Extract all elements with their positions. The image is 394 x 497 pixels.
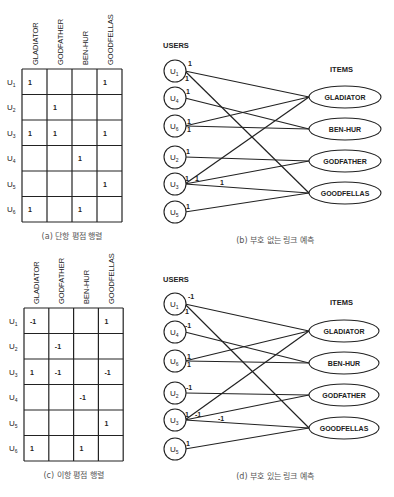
item-node: GOODFELLAS [309, 182, 381, 204]
item-node: GLADIATOR [309, 320, 379, 342]
user-node: U3 [164, 173, 186, 195]
row-header: U2 [7, 103, 16, 113]
item-node-label: BEN-HUR [328, 360, 360, 367]
row-header: U6 [7, 205, 16, 215]
item-node: BEN-HUR [309, 352, 379, 374]
edge-line [185, 428, 309, 449]
unsigned-link-prediction-graph: 1111111111U1U4U6U2U3U5GLADIATORBEN-HURGO… [163, 41, 381, 245]
edge-weight-label: -1 [185, 322, 191, 329]
matrix-cell-value: 1 [28, 130, 32, 137]
matrix-cell-value: 1 [104, 318, 108, 325]
edge-weight-label: 1 [186, 203, 190, 210]
matrix-cell-value: 1 [53, 104, 57, 111]
binary-rating-matrix: GLADIATORGODFATHERBEN-HURGOODFELLASU1-11… [9, 253, 123, 480]
edge-line [185, 304, 309, 331]
user-node: U2 [164, 382, 186, 404]
edge-weight-label: 1 [187, 126, 191, 133]
matrix-cell-value: 1 [30, 445, 34, 452]
items-header: ITEMS [330, 298, 353, 307]
figure-canvas: GLADIATORGODFATHERBEN-HURGOODFELLASU111U… [0, 0, 394, 497]
column-header: GLADIATOR [31, 22, 40, 65]
edge-line [185, 161, 309, 184]
matrix-cell-value: -1 [104, 369, 110, 376]
column-header: GLADIATOR [32, 261, 41, 304]
edge-weight-label: 1 [188, 60, 192, 67]
users-header: USERS [163, 41, 189, 50]
item-node-label: GLADIATOR [324, 328, 365, 335]
user-node: U4 [164, 87, 186, 109]
edge-weight-label: -1 [218, 415, 224, 422]
item-node: BEN-HUR [309, 118, 381, 140]
column-header: GOODFELLAS [107, 253, 116, 304]
column-header: BEN-HUR [82, 269, 91, 304]
matrix-cell-value: 1 [103, 130, 107, 137]
edge-line [185, 97, 309, 126]
edge-weight-label: 1 [185, 75, 189, 82]
item-node-label: GOODFELLAS [321, 190, 370, 197]
edge-line [185, 361, 309, 363]
edge-line [185, 332, 309, 363]
user-node: U6 [164, 350, 186, 372]
row-header: U1 [9, 317, 18, 327]
matrix-cell-value: 1 [30, 369, 34, 376]
edge-weight-label: -1 [195, 411, 201, 418]
item-node-label: BEN-HUR [329, 126, 361, 133]
user-node: U6 [164, 115, 186, 137]
edge-weight-label: 1 [185, 308, 189, 315]
edges: -11-111-11-1-11 [185, 293, 309, 449]
edge-line [185, 331, 309, 361]
item-node-label: GOODFELLAS [320, 425, 369, 432]
matrix-cell-value: -1 [30, 318, 36, 325]
matrix-grid [22, 69, 122, 222]
matrix-grid [24, 308, 123, 461]
figure-caption: (b) 부호 없는 링크 예측 [236, 235, 314, 245]
edge-weight-label: 1 [187, 118, 191, 125]
user-node: U1 [164, 60, 186, 82]
matrix-cell-value: -1 [55, 343, 61, 350]
user-node: U5 [164, 201, 186, 223]
row-header: U1 [7, 78, 16, 88]
user-node: U2 [164, 146, 186, 168]
item-node-label: GLADIATOR [325, 94, 366, 101]
edge-line [185, 71, 309, 193]
matrix-cell-value: 1 [103, 79, 107, 86]
matrix-cell-value: 1 [104, 420, 108, 427]
figure-caption: (d) 부호 있는 링크 예측 [236, 471, 314, 481]
row-header: U4 [7, 154, 16, 164]
edge-weight-label: 1 [186, 88, 190, 95]
edge-line [185, 157, 309, 161]
unary-rating-matrix: GLADIATORGODFATHERBEN-HURGOODFELLASU111U… [7, 14, 122, 241]
matrix-cell-value: 1 [28, 206, 32, 213]
figure-caption: (c) 이항 평점 행렬 [43, 470, 103, 480]
edge-weight-label: 1 [186, 148, 190, 155]
edges: 1111111111 [185, 60, 309, 212]
figure-caption: (a) 단항 평점 행렬 [42, 231, 103, 241]
user-node: U5 [164, 438, 186, 460]
users-header: USERS [163, 275, 189, 284]
matrix-cell-value: 1 [78, 155, 82, 162]
column-header: GOODFELLAS [106, 14, 115, 65]
row-header: U4 [9, 393, 18, 403]
matrix-cell-value: 1 [53, 130, 57, 137]
edge-weight-label: 1 [187, 361, 191, 368]
user-node: U1 [164, 293, 186, 315]
matrix-cell-value: 1 [78, 206, 82, 213]
row-header: U3 [7, 129, 16, 139]
matrix-cell-value: 1 [103, 181, 107, 188]
column-header: BEN-HUR [81, 30, 90, 65]
item-node: GLADIATOR [309, 86, 381, 108]
column-header: GODFATHER [57, 257, 66, 304]
matrix-cell-value: 1 [80, 445, 84, 452]
edge-weight-label: 1 [195, 175, 199, 182]
matrix-cell-value: 1 [28, 79, 32, 86]
column-header: GODFATHER [56, 18, 65, 65]
edge-weight-label: -1 [188, 293, 194, 300]
edge-line [185, 420, 309, 428]
item-node: GOODFELLAS [309, 417, 379, 439]
edge-weight-label: -1 [186, 384, 192, 391]
item-node: GODFATHER [309, 150, 381, 172]
row-header: U3 [9, 368, 18, 378]
edge-line [185, 395, 309, 420]
edge-line [185, 97, 309, 184]
item-node: GODFATHER [309, 384, 379, 406]
